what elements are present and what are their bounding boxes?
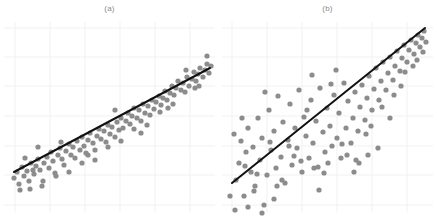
scatter-point: [287, 101, 292, 106]
scatter-point: [236, 160, 241, 165]
scatter-point: [81, 143, 86, 148]
scatter-point: [417, 44, 422, 49]
scatter-point: [397, 68, 402, 73]
scatter-point: [348, 140, 353, 145]
scatter-point: [164, 97, 169, 102]
scatter-point: [345, 98, 350, 103]
scatter-point: [55, 152, 60, 157]
scatter-point: [16, 181, 21, 186]
scatter-point: [183, 67, 188, 72]
scatter-point: [264, 172, 269, 177]
scatter-point: [333, 67, 338, 72]
scatter-point: [232, 207, 237, 212]
scatter-point: [274, 183, 279, 188]
scatter-point: [322, 149, 327, 154]
scatter-point: [399, 55, 404, 60]
scatter-point: [147, 112, 152, 117]
scatter-point: [359, 82, 364, 87]
scatter-point: [112, 107, 117, 112]
scatter-point: [70, 144, 75, 149]
scatter-point: [379, 104, 384, 109]
scatter-point: [414, 57, 419, 62]
regression-line: [232, 28, 425, 183]
scatter-point: [242, 163, 247, 168]
scatter-point: [310, 140, 315, 145]
scatter-point: [30, 167, 35, 172]
scatter-point: [343, 125, 348, 130]
scatter-point: [138, 118, 143, 123]
scatter-point: [299, 169, 304, 174]
scatter-point: [321, 170, 326, 175]
scatter-point: [420, 49, 425, 54]
scatter-point: [24, 168, 29, 173]
scatter-point: [85, 137, 90, 142]
scatter-point: [327, 123, 332, 128]
scatter-point: [204, 53, 209, 58]
scatter-point: [138, 130, 143, 135]
scatter-point: [280, 119, 285, 124]
scatter-point: [402, 69, 407, 74]
regression-line: [14, 68, 210, 172]
scatter-point: [304, 107, 309, 112]
scatter-point: [351, 169, 356, 174]
scatter-point: [339, 141, 344, 146]
scatter-point: [50, 158, 55, 163]
scatter-point: [267, 139, 272, 144]
scatter-point: [273, 165, 278, 170]
scatter-point: [336, 110, 341, 115]
scatter-point: [120, 125, 125, 130]
scatter-point: [338, 155, 343, 160]
scatter-point: [387, 115, 392, 120]
scatter-point: [11, 175, 16, 180]
scatter-point: [357, 104, 362, 109]
scatter-point: [27, 186, 32, 191]
scatter-point: [262, 89, 267, 94]
scatter-point: [46, 165, 51, 170]
scatter-point: [193, 78, 198, 83]
scatter-point: [308, 97, 313, 102]
scatter-point: [66, 169, 71, 174]
scatter-point: [286, 143, 291, 148]
scatter-point: [206, 70, 211, 75]
scatter-point: [325, 160, 330, 165]
scatter-point: [92, 157, 97, 162]
panel-b-plot: [218, 0, 437, 218]
scatter-point: [92, 147, 97, 152]
scatter-point: [63, 148, 68, 153]
scatter-point: [398, 83, 403, 88]
scatter-point: [243, 149, 248, 154]
scatter-point: [136, 107, 141, 112]
scatter-point: [61, 162, 66, 167]
scatter-point: [255, 115, 260, 120]
scatter-points: [11, 53, 213, 192]
scatter-point: [171, 92, 176, 97]
scatter-point: [175, 78, 180, 83]
scatter-point: [259, 135, 264, 140]
scatter-point: [101, 128, 106, 133]
scatter-point: [153, 99, 158, 104]
scatter-point: [238, 138, 243, 143]
figure-two-scatter-panels: (a) (b): [0, 0, 437, 218]
scatter-point: [306, 155, 311, 160]
scatter-point: [85, 152, 90, 157]
scatter-point: [79, 160, 84, 165]
panel-a-plot: [0, 0, 219, 218]
scatter-point: [72, 155, 77, 160]
scatter-point: [53, 173, 58, 178]
scatter-point: [109, 124, 114, 129]
panel-a: (a): [0, 0, 219, 218]
scatter-point: [362, 117, 367, 122]
scatter-point: [22, 155, 27, 160]
scatter-point: [35, 144, 40, 149]
scatter-point: [406, 47, 411, 52]
scatter-point: [90, 140, 95, 145]
scatter-point: [165, 105, 170, 110]
scatter-point: [151, 106, 156, 111]
scatter-point: [383, 87, 388, 92]
scatter-point: [227, 193, 232, 198]
scatter-point: [371, 86, 376, 91]
scatter-point: [254, 171, 259, 176]
scatter-point: [197, 65, 202, 70]
scatter-point: [413, 40, 418, 45]
scatter-point: [350, 115, 355, 120]
